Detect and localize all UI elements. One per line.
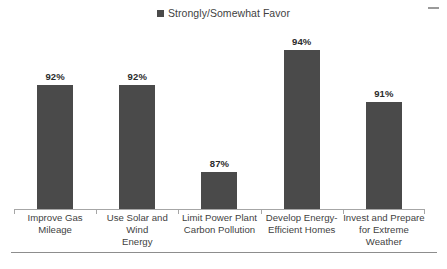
bar-value-label: 92%	[45, 71, 64, 82]
category-label-line: Improve Gas Mileage	[14, 212, 96, 236]
category-label: Invest and Preparefor Extreme Weather	[343, 212, 425, 248]
category-label: Develop Energy-Efficient Homes	[261, 212, 343, 236]
plot-area: 92%92%87%94%91%	[14, 26, 425, 210]
category-label: Improve Gas Mileage	[14, 212, 96, 236]
bottom-divider	[11, 252, 437, 253]
chart-legend: Strongly/Somewhat Favor	[0, 7, 447, 19]
legend-swatch-icon	[157, 10, 164, 17]
category-label-line: Limit Power Plant	[178, 212, 260, 224]
bar-value-label: 91%	[374, 88, 393, 99]
bar	[37, 85, 73, 210]
bar-group: 92%	[96, 26, 178, 210]
category-labels: Improve Gas MileageUse Solar and WindEne…	[14, 212, 425, 246]
bar	[284, 50, 320, 210]
bar-group: 87%	[178, 26, 260, 210]
category-label-line: Invest and Prepare	[343, 212, 425, 224]
bar-value-label: 94%	[292, 36, 311, 47]
bar-group: 94%	[261, 26, 343, 210]
category-label: Use Solar and WindEnergy	[96, 212, 178, 248]
category-label-line: for Extreme Weather	[343, 224, 425, 248]
bar-chart: Strongly/Somewhat Favor 92%92%87%94%91% …	[0, 0, 447, 269]
legend-label: Strongly/Somewhat Favor	[168, 7, 290, 19]
bar-group: 91%	[343, 26, 425, 210]
bar-value-label: 92%	[128, 71, 147, 82]
category-label-line: Energy	[96, 236, 178, 248]
category-label-line: Use Solar and Wind	[96, 212, 178, 236]
bar	[366, 102, 402, 210]
category-label-line: Efficient Homes	[261, 224, 343, 236]
bar	[201, 172, 237, 210]
category-label: Limit Power PlantCarbon Pollution	[178, 212, 260, 236]
bar	[119, 85, 155, 210]
x-axis-line	[14, 209, 425, 210]
bars-layer: 92%92%87%94%91%	[14, 26, 425, 210]
bar-group: 92%	[14, 26, 96, 210]
bar-value-label: 87%	[210, 158, 229, 169]
category-label-line: Carbon Pollution	[178, 224, 260, 236]
category-label-line: Develop Energy-	[261, 212, 343, 224]
